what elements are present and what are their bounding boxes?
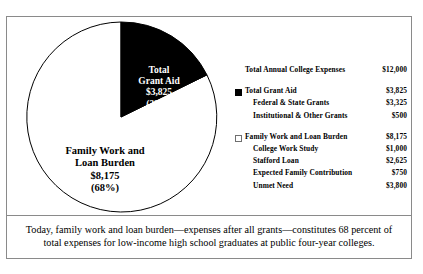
pie-label-burden-value: $8,175 <box>43 170 167 182</box>
legend-value-federal-state-grants: $3,325 <box>373 98 407 107</box>
legend-spacer-2 <box>235 123 407 132</box>
legend-marker-none <box>235 111 245 123</box>
legend-marker-none <box>235 98 245 110</box>
legend-marker-none <box>235 144 245 156</box>
caption-divider <box>7 215 411 216</box>
legend-row-family-burden-header: Family Work and Loan Burden $8,175 <box>235 132 407 144</box>
legend-label-stafford-loan: Stafford Loan <box>245 156 373 165</box>
legend-marker-none <box>235 65 245 77</box>
hollow-square-icon <box>235 135 242 142</box>
legend-value-total-expenses: $12,000 <box>373 65 407 74</box>
legend-value-institutional-other-grants: $500 <box>373 111 407 120</box>
legend-row-unmet-need: Unmet Need $3,800 <box>235 181 407 193</box>
legend-label-expected-family-contribution: Expected Family Contribution <box>245 168 373 177</box>
legend-table: Total Annual College Expenses $12,000 To… <box>235 65 407 193</box>
legend-row-stafford-loan: Stafford Loan $2,625 <box>235 156 407 168</box>
pie-label-grant-line1: Total <box>117 65 201 76</box>
legend-label-family-burden: Family Work and Loan Burden <box>245 132 373 141</box>
legend-row-total-expenses: Total Annual College Expenses $12,000 <box>235 65 407 77</box>
legend-group-family-burden: Family Work and Loan Burden $8,175 Colle… <box>235 132 407 193</box>
figure-frame: Total Grant Aid $3,825 (32%) Family Work… <box>6 16 412 259</box>
legend-label-institutional-other-grants: Institutional & Other Grants <box>245 111 373 120</box>
legend-value-stafford-loan: $2,625 <box>373 156 407 165</box>
legend-group-grant-aid: Total Grant Aid $3,825 Federal & State G… <box>235 86 407 123</box>
legend-row-institutional-other-grants: Institutional & Other Grants $500 <box>235 111 407 123</box>
legend-row-college-work-study: College Work Study $1,000 <box>235 144 407 156</box>
figure-caption: Today, family work and loan burden—expen… <box>17 223 401 249</box>
legend-row-grant-aid-header: Total Grant Aid $3,825 <box>235 86 407 98</box>
legend-label-grant-aid: Total Grant Aid <box>245 86 373 95</box>
legend-label-college-work-study: College Work Study <box>245 144 373 153</box>
pie-chart: Total Grant Aid $3,825 (32%) Family Work… <box>21 17 221 215</box>
legend-spacer-1 <box>235 77 407 86</box>
legend-row-federal-state-grants: Federal & State Grants $3,325 <box>235 98 407 110</box>
pie-label-grant-aid: Total Grant Aid $3,825 (32%) <box>117 65 201 110</box>
legend-marker-none <box>235 181 245 193</box>
legend-label-total-expenses: Total Annual College Expenses <box>245 65 373 74</box>
legend-value-expected-family-contribution: $750 <box>373 168 407 177</box>
legend-row-expected-family-contribution: Expected Family Contribution $750 <box>235 168 407 180</box>
legend-marker-none <box>235 156 245 168</box>
pie-label-grant-percent: (32%) <box>117 99 201 110</box>
legend-value-college-work-study: $1,000 <box>373 144 407 153</box>
pie-label-burden-line2: Loan Burden <box>43 157 167 169</box>
pie-label-burden-line1: Family Work and <box>43 145 167 157</box>
pie-label-grant-value: $3,825 <box>117 87 201 98</box>
filled-square-icon <box>235 89 242 96</box>
legend-marker-cell-grant-aid <box>235 86 245 98</box>
legend-value-unmet-need: $3,800 <box>373 181 407 190</box>
legend-marker-none <box>235 168 245 180</box>
pie-label-grant-line2: Grant Aid <box>117 76 201 87</box>
legend-label-unmet-need: Unmet Need <box>245 181 373 190</box>
legend-marker-cell-family-burden <box>235 132 245 144</box>
pie-label-family-burden: Family Work and Loan Burden $8,175 (68%) <box>43 145 167 195</box>
legend-label-federal-state-grants: Federal & State Grants <box>245 98 373 107</box>
pie-label-burden-percent: (68%) <box>43 182 167 194</box>
legend-value-family-burden: $8,175 <box>373 132 407 141</box>
legend-value-grant-aid: $3,825 <box>373 86 407 95</box>
chart-area: Total Grant Aid $3,825 (32%) Family Work… <box>7 17 411 215</box>
